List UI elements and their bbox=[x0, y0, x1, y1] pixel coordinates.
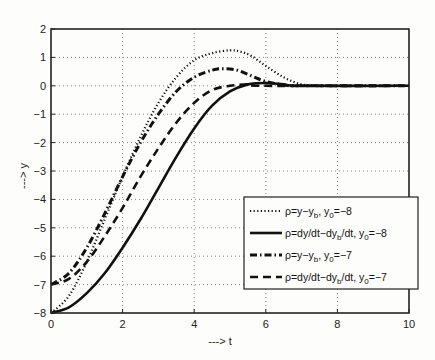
x-tick-label: 4 bbox=[191, 318, 197, 330]
y-tick-label: 2 bbox=[40, 23, 46, 35]
y-tick-label: −1 bbox=[33, 108, 46, 120]
y-tick-label: −6 bbox=[33, 250, 46, 262]
line-chart: 0246810210−1−2−3−4−5−6−7−8 ---> t ---> y… bbox=[0, 0, 435, 360]
y-tick-label: −4 bbox=[33, 193, 46, 205]
y-tick-label: 1 bbox=[40, 51, 46, 63]
legend: ρ=y−yb, y0=−8ρ=dy/dt−dyb/dt, y0=−8ρ=y−yb… bbox=[244, 197, 418, 289]
y-tick-label: −7 bbox=[33, 279, 46, 291]
y-tick-label: −8 bbox=[33, 307, 46, 319]
y-tick-label: −3 bbox=[33, 165, 46, 177]
y-axis-label: ---> y bbox=[17, 163, 29, 189]
x-tick-label: 8 bbox=[334, 318, 340, 330]
y-tick-label: −5 bbox=[33, 222, 46, 234]
y-tick-label: −2 bbox=[33, 137, 46, 149]
y-tick-label: 0 bbox=[40, 80, 46, 92]
x-tick-label: 10 bbox=[403, 318, 415, 330]
x-tick-label: 2 bbox=[120, 318, 126, 330]
x-tick-label: 0 bbox=[48, 318, 54, 330]
x-axis-label: ---> t bbox=[208, 335, 232, 347]
x-tick-label: 6 bbox=[263, 318, 269, 330]
